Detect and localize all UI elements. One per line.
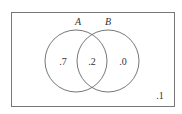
- region-a-only: .7: [59, 56, 67, 67]
- region-outside: .1: [156, 90, 164, 101]
- set-b-circle: [77, 30, 139, 92]
- region-a-and-b: .2: [88, 56, 96, 67]
- set-a-label: A: [74, 16, 82, 27]
- set-a-circle: [45, 30, 107, 92]
- set-b-label: B: [105, 16, 111, 27]
- venn-diagram: A B .7 .2 .0 .1: [0, 0, 182, 114]
- region-b-only: .0: [119, 56, 127, 67]
